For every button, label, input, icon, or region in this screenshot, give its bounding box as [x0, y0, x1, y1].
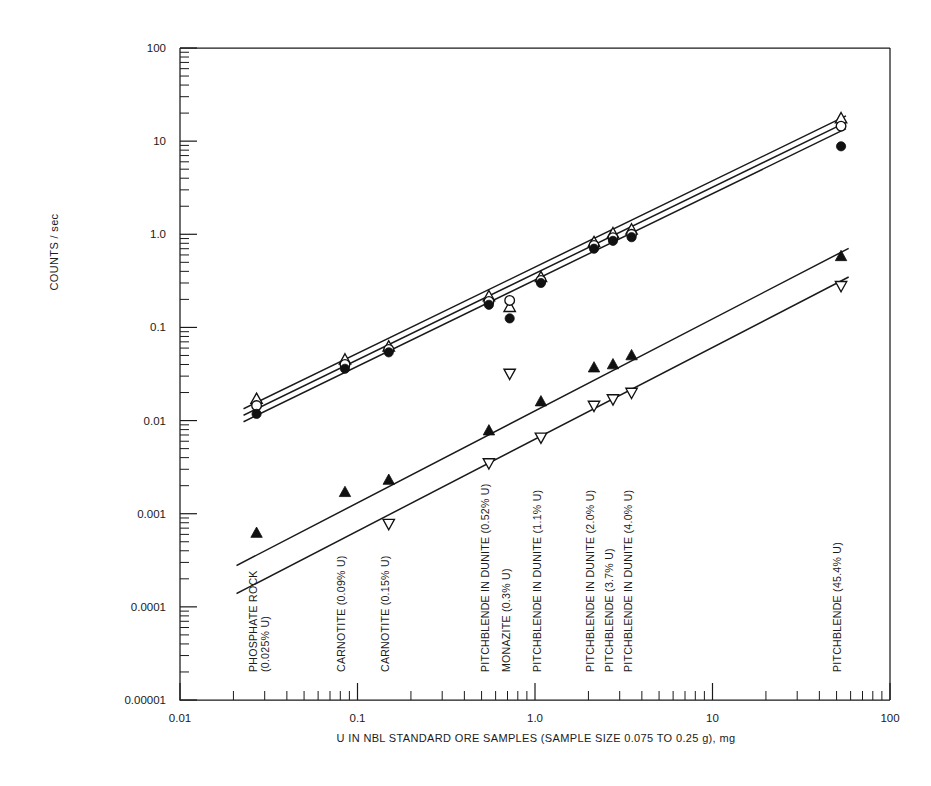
series-open-triangle-up [251, 113, 847, 404]
data-point-triangle-up-filled [339, 486, 350, 496]
y-tick-label: 0.001 [137, 508, 166, 520]
x-axis-title: U IN NBL STANDARD ORE SAMPLES (SAMPLE SI… [337, 732, 736, 744]
data-point-circle-filled [484, 300, 493, 309]
sample-label: PHOSPHATE ROCK [247, 570, 259, 672]
series-open-triangle-down [383, 281, 847, 529]
y-tick-label: 0.00001 [124, 694, 166, 706]
y-tick-label: 0.0001 [131, 601, 166, 613]
x-tick-label: 100 [880, 712, 899, 724]
data-point-circle-filled [384, 348, 393, 357]
data-point-circle-filled [608, 236, 617, 245]
data-point-triangle-up-filled [835, 250, 846, 260]
data-point-circle-open [836, 121, 846, 131]
y-tick-label: 100 [147, 42, 166, 54]
sample-label-second-line: (0.025% U) [259, 616, 271, 672]
data-point-triangle-up-filled [626, 349, 637, 359]
data-point-circle-open [505, 296, 515, 306]
data-point-circle-filled [536, 278, 545, 287]
x-tick-label: 1.0 [527, 712, 543, 724]
sample-label: PITCHBLENDE (45.4% U) [831, 542, 843, 672]
y-tick-label: 1.0 [150, 228, 166, 240]
series-filled-circle [252, 142, 846, 419]
sample-label: PITCHBLENDE IN DUNITE (4.0% U) [622, 490, 634, 672]
trend-line [244, 123, 845, 415]
figure-container: 0.010.11.010100 100101.00.10.010.0010.00… [0, 0, 931, 786]
sample-label: PITCHBLENDE (3.7% U) [603, 548, 615, 672]
y-tick-label: 10 [153, 135, 166, 147]
data-point-triangle-down-open [835, 281, 846, 291]
sample-label: PITCHBLENDE IN DUNITE (1.1% U) [531, 490, 543, 672]
sample-labels-group: PHOSPHATE ROCK(0.025% U)CARNOTITE (0.09%… [247, 484, 843, 672]
sample-label: MONAZITE (0.3% U) [500, 568, 512, 672]
data-point-triangle-down-open [626, 388, 637, 398]
data-point-circle-filled [252, 409, 261, 418]
log-log-scatter-chart: 0.010.11.010100 100101.00.10.010.0010.00… [0, 0, 931, 786]
trend-line [244, 116, 845, 408]
data-point-circle-filled [340, 364, 349, 373]
data-point-triangle-up-filled [383, 474, 394, 484]
y-tick-labels-group: 100101.00.10.010.0010.00010.00001 [124, 42, 166, 706]
data-point-circle-filled [836, 142, 845, 151]
data-point-triangle-down-open [607, 395, 618, 405]
y-axis-title: COUNTS / sec [48, 213, 60, 290]
data-point-circle-filled [627, 233, 636, 242]
sample-label: PITCHBLENDE IN DUNITE (0.52% U) [479, 484, 491, 672]
x-tick-label: 10 [706, 712, 719, 724]
data-point-triangle-up-filled [588, 362, 599, 372]
data-point-triangle-up-filled [607, 358, 618, 368]
data-point-triangle-up-filled [483, 425, 494, 435]
sample-label: CARNOTITE (0.09% U) [335, 555, 347, 672]
y-tick-label: 0.1 [150, 321, 166, 333]
data-point-triangle-down-open [383, 519, 394, 529]
trend-line [244, 129, 845, 421]
sample-label: CARNOTITE (0.15% U) [379, 555, 391, 672]
y-tick-label: 0.01 [144, 415, 166, 427]
data-point-triangle-down-open [483, 459, 494, 469]
sample-label: PITCHBLENDE IN DUNITE (2.0% U) [584, 490, 596, 672]
data-point-triangle-up-filled [251, 527, 262, 537]
x-tick-label: 0.1 [350, 712, 366, 724]
x-tick-label: 0.01 [169, 712, 191, 724]
data-point-triangle-up-filled [535, 396, 546, 406]
data-point-triangle-down-open [504, 369, 515, 379]
data-point-circle-filled [589, 244, 598, 253]
x-tick-labels-group: 0.010.11.010100 [169, 712, 900, 724]
data-point-circle-filled [505, 314, 514, 323]
series-filled-triangle-up [251, 250, 847, 537]
